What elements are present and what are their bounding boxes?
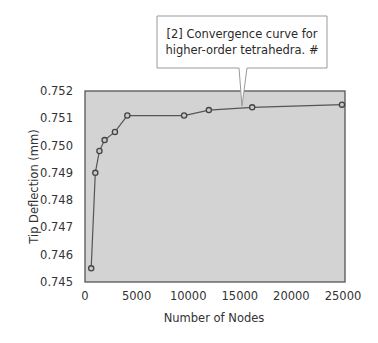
- data-point-marker: [97, 148, 102, 153]
- y-tick-label: 0.748: [40, 193, 73, 207]
- data-point-marker: [181, 113, 186, 118]
- y-tick-label: 0.746: [40, 248, 73, 262]
- data-point-marker: [339, 102, 344, 107]
- x-axis-title: Number of Nodes: [164, 311, 265, 325]
- x-tick-labels: 0500010000150002000025000: [81, 289, 361, 303]
- callout-line-2: higher-order tetrahedra. #: [165, 43, 318, 57]
- x-tick-label: 25000: [325, 289, 362, 303]
- data-point-marker: [112, 129, 117, 134]
- y-axis-title: Tip Deflection (mm): [27, 129, 41, 244]
- x-tick-label: 15000: [222, 289, 259, 303]
- data-point-marker: [250, 105, 255, 110]
- y-tick-label: 0.745: [40, 275, 73, 289]
- convergence-chart: 0500010000150002000025000 0.7450.7460.74…: [0, 0, 378, 343]
- data-point-marker: [125, 113, 130, 118]
- data-point-marker: [93, 170, 98, 175]
- data-point-marker: [206, 108, 211, 113]
- y-tick-label: 0.751: [40, 111, 73, 125]
- callout-line-1: [2] Convergence curve for: [166, 27, 317, 41]
- data-point-marker: [89, 266, 94, 271]
- x-tick-label: 10000: [170, 289, 207, 303]
- x-tick-label: 5000: [122, 289, 151, 303]
- data-point-marker: [102, 138, 107, 143]
- y-tick-label: 0.752: [40, 84, 73, 98]
- y-tick-label: 0.747: [40, 220, 73, 234]
- y-tick-labels: 0.7450.7460.7470.7480.7490.7500.7510.752: [40, 84, 73, 289]
- y-tick-label: 0.749: [40, 166, 73, 180]
- x-tick-label: 0: [81, 289, 88, 303]
- x-tick-label: 20000: [273, 289, 310, 303]
- y-tick-label: 0.750: [40, 139, 73, 153]
